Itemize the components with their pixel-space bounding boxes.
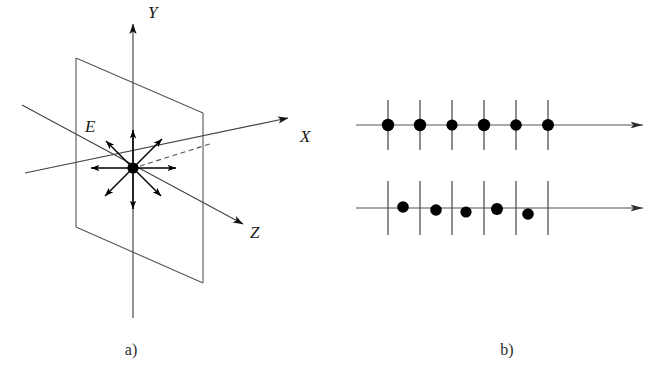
- dot-marker: [430, 204, 442, 216]
- axis-label-z: Z: [250, 223, 260, 242]
- dot-marker: [414, 119, 426, 131]
- plane-edge-top: [76, 58, 203, 113]
- e-field-arrow-up-right: [133, 139, 162, 168]
- e-field-arrow-up-left: [106, 141, 133, 168]
- dot-marker: [510, 119, 522, 131]
- figure-root: E Y X Z a) b): [0, 0, 669, 382]
- origin-dot: [127, 162, 138, 173]
- panel-b-rows: [356, 100, 643, 235]
- dot-marker: [522, 208, 534, 220]
- number-line-aligned-row: [356, 100, 643, 150]
- dot-marker: [491, 203, 503, 215]
- plane-parallelogram: [76, 58, 203, 283]
- dot-marker: [446, 119, 457, 130]
- panel-a: E Y X Z a): [0, 0, 340, 382]
- axis-label-x: X: [299, 127, 311, 146]
- dot-marker: [460, 206, 471, 217]
- panel-a-caption: a): [125, 341, 137, 359]
- panel-b-caption: b): [500, 341, 513, 359]
- dot-marker: [397, 201, 409, 213]
- panel-b: b): [340, 0, 669, 382]
- field-label-e: E: [84, 117, 96, 136]
- dot-marker: [478, 119, 490, 131]
- number-line-offset-row: [356, 181, 643, 235]
- dot-marker: [542, 119, 554, 131]
- e-field-arrow-down-left: [105, 168, 133, 196]
- dot-marker: [382, 119, 394, 131]
- axis-label-y: Y: [148, 3, 159, 22]
- plane-edge-bottom: [76, 227, 203, 283]
